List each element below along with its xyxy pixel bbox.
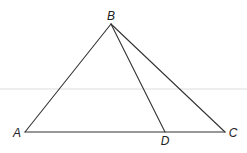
- segment-bd: [111, 24, 165, 132]
- point-label-d: D: [161, 135, 170, 147]
- vertex-label-b: B: [107, 10, 115, 22]
- vertex-label-c: C: [229, 127, 238, 139]
- segment-bc: [111, 24, 225, 132]
- vertex-label-a: A: [13, 127, 21, 139]
- segment-ab: [25, 24, 111, 132]
- triangle-diagram: B A D C: [0, 0, 247, 153]
- diagram-svg: [0, 0, 247, 153]
